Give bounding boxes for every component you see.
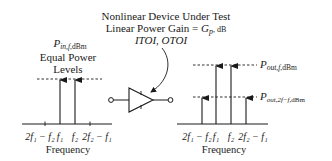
input-tick-label-1: f₁ (57, 131, 63, 142)
input-port-icon (109, 98, 114, 103)
output-port-icon (168, 98, 173, 103)
equal-power-note-2: Levels (53, 63, 82, 75)
output-im-label: Pout,2f−f,dBm (259, 90, 305, 104)
output-tick-label-2: f₂ (228, 131, 235, 142)
output-tick-label-3: 2f₂ − f₁ (238, 131, 267, 142)
output-x-axis-label: Frequency (202, 144, 247, 155)
title-line-3: ITOI, OTOI (134, 34, 188, 46)
equal-power-note-1: Equal Power (40, 51, 97, 63)
pointer-arrow-icon (151, 48, 168, 92)
title-line-1: Nonlinear Device Under Test (102, 10, 231, 22)
input-spectrum: Pin,f,dBm Equal Power Levels 2f₁ − f₂ f₁… (22, 37, 112, 155)
two-tone-test-diagram: Nonlinear Device Under Test Linear Power… (0, 0, 332, 161)
input-tick-label-0: 2f₁ − f₂ (25, 131, 55, 142)
output-spectrum: Pout,f,dBm Pout,2f−f,dBm 2f₁ − f₂ f₁ f₂ … (177, 58, 305, 155)
input-x-axis-label: Frequency (46, 144, 91, 155)
output-tick-label-0: 2f₁ − f₂ (182, 131, 212, 142)
input-power-label: Pin,f,dBm (53, 37, 87, 51)
output-tick-label-1: f₁ (213, 131, 219, 142)
input-tick-label-3: 2f₂ − f₁ (82, 131, 111, 142)
input-tick-label-2: f₂ (72, 131, 79, 142)
amplifier-symbol (109, 88, 173, 112)
device-title: Nonlinear Device Under Test Linear Power… (102, 10, 231, 46)
output-fundamental-label: Pout,f,dBm (259, 58, 297, 72)
